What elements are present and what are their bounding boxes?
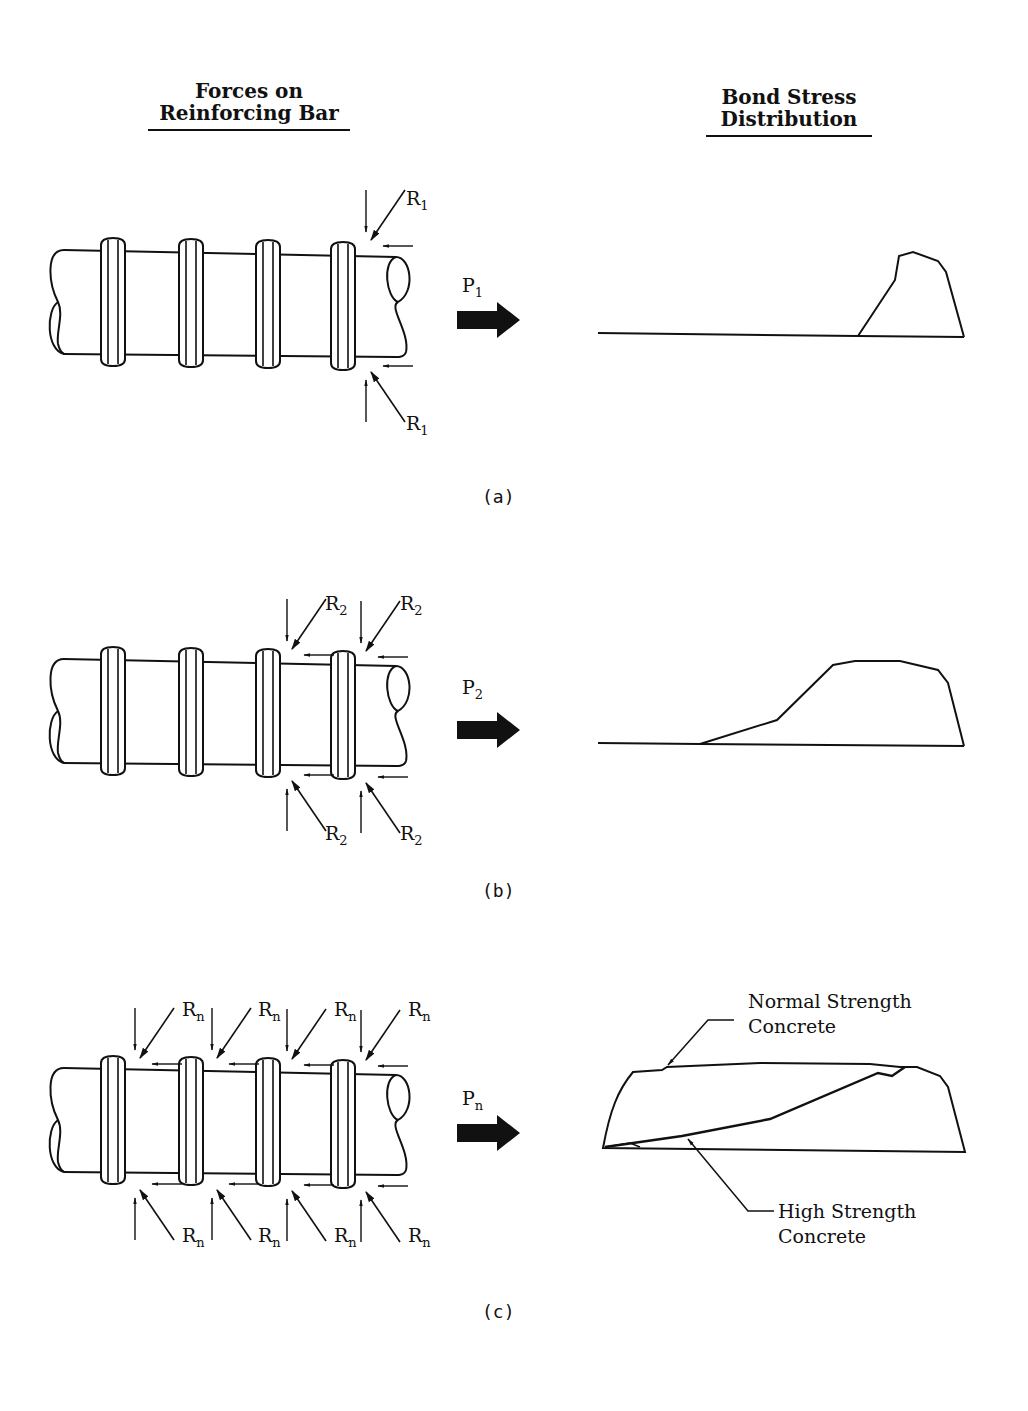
- panel-caption: (a): [482, 486, 515, 507]
- annotation-high-strength: High Strength Concrete: [688, 1139, 916, 1247]
- diagram-canvas: R1 R1 P1 (a) R2 R2 R2 R2 P2 (b): [0, 0, 1028, 1411]
- reaction-label-bottom: R2: [400, 822, 423, 848]
- annotation-normal-strength: Normal Strength Concrete: [668, 990, 912, 1065]
- pull-force-label: P2: [462, 676, 483, 702]
- reaction-label-bottom: R2: [325, 822, 348, 848]
- reaction-label-top: R2: [325, 592, 348, 618]
- annotation-line-1: High Strength: [778, 1200, 916, 1222]
- reinforcing-bar: [50, 647, 410, 779]
- reinforcing-bar: [50, 1056, 410, 1188]
- bearing-forces-rib-4: [366, 190, 413, 422]
- bond-stress-curve-b: [598, 661, 964, 746]
- annotation-line-1: Normal Strength: [748, 990, 912, 1012]
- panel-c: Rn Rn Rn Rn Rn Rn Rn Rn Pn Normal Streng…: [50, 990, 965, 1322]
- annotation-line-2: Concrete: [778, 1225, 866, 1247]
- panel-caption: (b): [482, 880, 515, 901]
- bond-stress-curve-a: [598, 252, 964, 337]
- panel-b: R2 R2 R2 R2 P2 (b): [50, 592, 964, 901]
- bearing-forces-rib-4: [361, 601, 408, 833]
- reaction-label-top: Rn: [334, 998, 357, 1024]
- reaction-label-bottom: Rn: [334, 1224, 357, 1250]
- bond-stress-curve-high-strength: [605, 1067, 905, 1147]
- reaction-label-top: Rn: [258, 998, 281, 1024]
- reaction-label-top: Rn: [182, 998, 205, 1024]
- reaction-label-bottom: R1: [406, 412, 429, 438]
- bearing-forces-rib-3: [287, 599, 334, 831]
- reaction-label-bottom: Rn: [182, 1224, 205, 1250]
- reaction-label-top: R1: [406, 187, 429, 213]
- panel-a: R1 R1 P1 (a): [50, 187, 964, 507]
- reaction-label-top: Rn: [408, 998, 431, 1024]
- pull-force-label: Pn: [462, 1087, 484, 1113]
- reaction-label-top: R2: [400, 592, 423, 618]
- pull-force-arrow: [457, 302, 520, 338]
- annotation-line-2: Concrete: [748, 1015, 836, 1037]
- pull-force-arrow: [457, 712, 520, 748]
- reinforcing-bar: [50, 238, 410, 370]
- panel-caption: (c): [482, 1301, 515, 1322]
- pull-force-label: P1: [462, 274, 483, 300]
- reaction-label-bottom: Rn: [258, 1224, 281, 1250]
- pull-force-arrow: [457, 1115, 520, 1151]
- reaction-label-bottom: Rn: [408, 1224, 431, 1250]
